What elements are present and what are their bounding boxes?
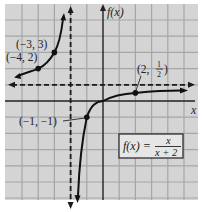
- svg-text:): ): [164, 63, 168, 76]
- point-neg1-neg1: [84, 114, 90, 120]
- graph-canvas: x f(x) (−3, 3) (−4, 2) (−1, −1) (2, 1 2 …: [0, 0, 202, 212]
- label-neg3-3: (−3, 3): [16, 38, 48, 51]
- svg-text:1: 1: [157, 60, 161, 69]
- svg-text:2: 2: [157, 70, 161, 79]
- formula-numerator: x: [165, 135, 171, 146]
- x-axis-label: x: [190, 103, 197, 117]
- point-neg4-2: [35, 66, 41, 72]
- formula-lhs: f(x) =: [123, 139, 151, 153]
- formula-denominator: x + 2: [154, 147, 178, 158]
- label-neg1-neg1: (−1, −1): [19, 115, 57, 128]
- y-axis-label: f(x): [107, 5, 124, 19]
- point-2-half: [133, 90, 139, 96]
- label-neg4-2: (−4, 2): [6, 51, 38, 64]
- asymptote-down-arrow-icon: [68, 202, 74, 209]
- point-neg3-3: [52, 50, 58, 56]
- svg-text:(2,: (2,: [137, 63, 150, 76]
